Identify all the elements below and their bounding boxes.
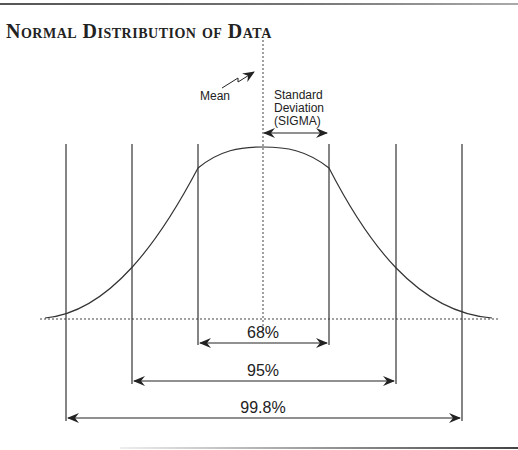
mean-pointer-icon [222,72,254,88]
range-998-label: 99.8% [240,399,285,416]
bottom-rule [120,447,518,449]
bell-curve [45,147,492,318]
sigma-label-line1: Standard [274,88,323,102]
range-68-label: 68% [247,324,279,341]
sigma-label-line2: Deviation [274,101,324,115]
normal-distribution-diagram: Mean Standard Deviation (SIGMA) 68% 95% … [0,0,518,450]
range-95-label: 95% [247,362,279,379]
sigma-lines [66,144,462,421]
mean-label: Mean [200,89,230,103]
sigma-label-line3: (SIGMA) [274,114,321,128]
